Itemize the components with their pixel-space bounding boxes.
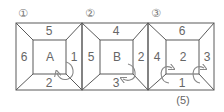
face-left-label: 4 xyxy=(154,51,161,63)
rotate-arrow-icon xyxy=(57,62,73,80)
caption: (5) xyxy=(176,94,189,106)
face-top-label: 4 xyxy=(113,25,120,37)
face-bottom-label: 1 xyxy=(179,77,186,89)
face-bottom-label: 3 xyxy=(113,77,120,89)
face-center-label: A xyxy=(46,51,54,63)
face-center-label: 2 xyxy=(180,51,187,63)
face-right-label: 2 xyxy=(138,51,145,63)
face-left-label: 5 xyxy=(88,51,95,63)
figure-number: ① xyxy=(18,7,28,19)
face-right-label: 3 xyxy=(204,51,211,63)
figure-number: ③ xyxy=(151,7,161,19)
face-center-label: B xyxy=(113,51,121,63)
face-top-label: 6 xyxy=(179,25,186,37)
face-left-label: 6 xyxy=(21,51,28,63)
face-bottom-label: 2 xyxy=(46,77,53,89)
rotate-arrow-icon xyxy=(161,67,172,83)
face-top-label: 5 xyxy=(46,25,53,37)
figure-number: ② xyxy=(85,7,95,19)
face-right-label: 1 xyxy=(71,51,78,63)
